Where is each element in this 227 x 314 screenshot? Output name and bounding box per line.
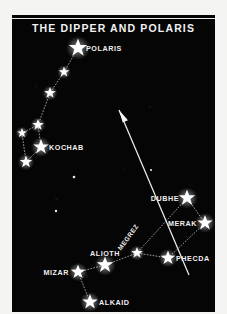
constellation-line-big-dipper-bowl <box>137 198 205 258</box>
star-label-phecda: PHECDA <box>176 254 210 263</box>
star-label-alkaid: ALKAID <box>99 298 129 307</box>
star-label-merak: MERAK <box>168 219 197 228</box>
star-label-dubhe: DUBHE <box>151 194 179 203</box>
star-label-alioth: ALIOTH <box>90 249 120 258</box>
star-label-polaris: POLARIS <box>86 44 122 53</box>
sky-plate: THE DIPPER AND POLARIS POLARIS KOCHAB DU… <box>12 15 215 312</box>
star-label-kochab: KOCHAB <box>49 143 84 152</box>
star-chart-frame: THE DIPPER AND POLARIS POLARIS KOCHAB DU… <box>0 0 227 314</box>
star-marker-faint <box>150 169 152 171</box>
pointer-arrow-head <box>119 110 128 123</box>
sky-diagram <box>12 15 215 312</box>
star-marker-faint <box>73 176 76 179</box>
constellation-line-ursa-minor-handle <box>38 48 78 125</box>
star-marker-faint <box>55 210 57 212</box>
star-label-mizar: MIZAR <box>43 268 69 277</box>
